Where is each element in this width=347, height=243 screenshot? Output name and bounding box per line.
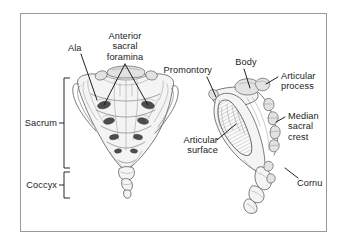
- label-median-sacral-crest-line1: Median: [288, 111, 319, 121]
- label-body: Body: [235, 57, 256, 67]
- label-articular-surface: Articular surface: [183, 135, 218, 156]
- label-articular-process-line1: Articular: [281, 71, 316, 81]
- label-ala: Ala: [68, 43, 82, 53]
- bracket-coccyx: [64, 172, 70, 198]
- label-articular-process: Articular process: [281, 71, 316, 92]
- figure-root: .ol { fill:none; stroke:#5a5a5a; stroke-…: [0, 0, 347, 243]
- label-anterior-sacral-foramina-line3: foramina: [107, 52, 143, 62]
- label-anterior-sacral-foramina-line2: sacral: [112, 41, 137, 51]
- label-articular-process-line2: process: [281, 81, 314, 91]
- anterior-sacrum-drawing: [73, 66, 179, 198]
- measure-brackets: [59, 78, 70, 198]
- leader-cornu: [285, 168, 298, 178]
- label-coccyx: Coccyx: [26, 180, 57, 190]
- label-sacrum: Sacrum: [25, 118, 57, 128]
- lateral-sacrum-drawing: [209, 78, 280, 213]
- label-cornu: Cornu: [297, 178, 322, 188]
- label-anterior-sacral-foramina-line1: Anterior: [109, 31, 142, 41]
- label-anterior-sacral-foramina: Anterior sacral foramina: [107, 31, 143, 62]
- label-median-sacral-crest-line2: sacral: [288, 121, 313, 131]
- label-median-sacral-crest: Median sacral crest: [288, 111, 319, 142]
- label-median-sacral-crest-line3: crest: [288, 132, 308, 142]
- label-promontory: Promontory: [164, 65, 212, 75]
- bracket-sacrum: [64, 78, 70, 168]
- label-articular-surface-line1: Articular: [183, 135, 218, 145]
- label-articular-surface-line2: surface: [187, 145, 218, 155]
